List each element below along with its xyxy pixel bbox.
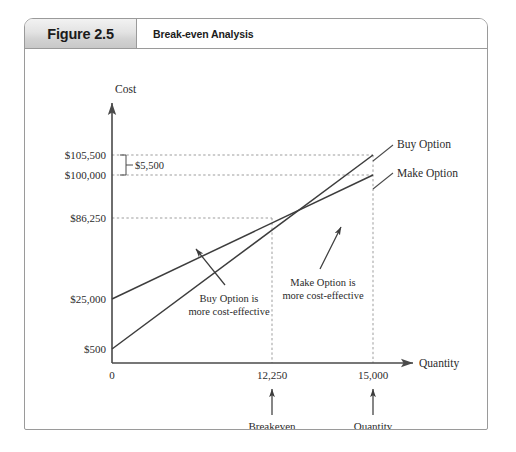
make-option-leader	[373, 173, 393, 189]
y-tick-label-25000: $25,000	[70, 293, 106, 305]
y-tick-label-100000: $100,000	[65, 169, 107, 181]
x-tick-label-12250: 12,250	[257, 369, 288, 381]
cost-gap-bracket: $5,500	[120, 155, 164, 175]
series-line-make-option	[112, 155, 373, 349]
annotation-make-cheaper: Make Option is more cost-effective	[282, 227, 363, 301]
figure-frame: Figure 2.5 Break-even Analysis	[24, 18, 488, 430]
series-label-buy-option: Buy Option	[397, 138, 451, 151]
make-cheaper-line2: more cost-effective	[282, 290, 363, 301]
x-axis-ticks: 0 12,250 15,000	[109, 369, 388, 381]
cost-gap-label: $5,500	[135, 160, 164, 171]
needed-caption-line1: Quantity	[354, 420, 393, 429]
buy-option-leader	[373, 145, 393, 161]
y-tick-label-500: $500	[84, 343, 107, 355]
x-tick-label-0: 0	[109, 369, 115, 381]
y-axis-title: Cost	[115, 83, 137, 95]
figure-title-label: Break-even Analysis	[153, 28, 253, 40]
y-tick-label-86250: $86,250	[70, 212, 106, 224]
chart-series	[112, 155, 373, 349]
series-labels: Buy Option Make Option	[373, 138, 458, 189]
buy-cheaper-line1: Buy Option is	[200, 293, 259, 304]
chart-axes	[112, 103, 413, 363]
y-axis-ticks: $105,500 $100,000 $86,250 $25,000 $500	[65, 149, 107, 355]
breakeven-caption-line1: Breakeven	[248, 420, 296, 429]
caption-breakeven-quantity: Breakeven Quantity	[248, 389, 296, 429]
caption-quantity-needed: Quantity Needed	[354, 389, 393, 429]
break-even-chart: Buy Option Make Option $105,500 $100,000…	[25, 49, 487, 429]
figure-number-cell: Figure 2.5	[25, 19, 137, 48]
y-tick-label-105500: $105,500	[65, 149, 107, 161]
x-tick-label-15000: 15,000	[358, 369, 389, 381]
guide-lines	[112, 155, 373, 363]
make-cheaper-line1: Make Option is	[290, 277, 355, 288]
x-axis-title: Quantity	[419, 357, 459, 370]
chart-plot-area: Buy Option Make Option $105,500 $100,000…	[25, 49, 487, 429]
buy-cheaper-line2: more cost-effective	[188, 306, 269, 317]
figure-number-label: Figure 2.5	[47, 26, 114, 42]
buy-cheaper-arrow	[196, 249, 225, 285]
series-label-make-option: Make Option	[397, 167, 458, 180]
figure-title-cell: Break-even Analysis	[137, 19, 487, 48]
figure-header: Figure 2.5 Break-even Analysis	[25, 19, 487, 49]
bracket-shape	[120, 155, 126, 175]
make-cheaper-arrow	[320, 227, 341, 269]
